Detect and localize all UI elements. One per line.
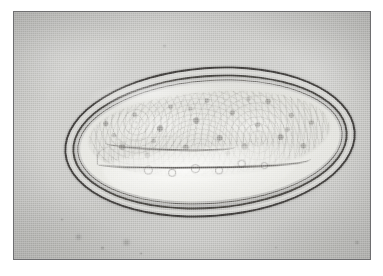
debris-speck-9 <box>210 259 215 260</box>
debris-speck-7 <box>370 57 371 60</box>
photo-frame <box>13 11 371 260</box>
parasite-egg <box>59 57 361 228</box>
photo-plate-page <box>0 0 383 276</box>
